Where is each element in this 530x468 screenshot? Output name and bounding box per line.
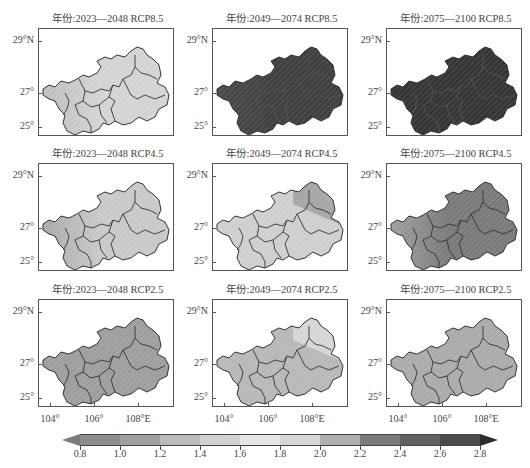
x-tick <box>138 403 139 407</box>
x-tick <box>398 403 399 407</box>
province-map <box>387 164 522 271</box>
province-map <box>213 29 348 136</box>
map-panel: 年份:2049—2074 RCP8.5 29°N27°25° <box>174 10 349 145</box>
y-axis-label: 25° <box>348 391 382 402</box>
panel-title: 年份:2075—2100 RCP4.5 <box>386 145 526 160</box>
colorbar-tick-label: 1.2 <box>145 448 175 459</box>
province-map <box>387 300 522 407</box>
map-panel: 年份:2075—2100 RCP2.5 29°N27°25°104°106°10… <box>348 281 523 416</box>
y-tick <box>386 398 390 399</box>
y-tick <box>38 176 42 177</box>
x-tick <box>312 403 313 407</box>
colorbar-segment <box>120 434 160 446</box>
y-tick <box>212 228 216 229</box>
map-panel: 年份:2023—2048 RCP2.5 29°N27°25°104°106°10… <box>0 281 175 416</box>
y-axis-label: 29°N <box>174 34 208 45</box>
map-frame <box>38 163 174 271</box>
colorbar-segment <box>280 434 320 446</box>
panel-title: 年份:2023—2048 RCP2.5 <box>38 281 178 296</box>
colorbar-tick-label: 2.4 <box>385 448 415 459</box>
colorbar-segment <box>320 434 360 446</box>
map-frame <box>212 28 348 136</box>
y-axis-label: 25° <box>0 120 34 131</box>
y-tick <box>386 262 390 263</box>
colorbar-segment <box>160 434 200 446</box>
colorbar-segment <box>360 434 400 446</box>
colorbar-tick-label: 2.6 <box>425 448 455 459</box>
panel-title: 年份:2023—2048 RCP8.5 <box>38 10 178 25</box>
y-tick <box>38 41 42 42</box>
x-axis-label: 108°E <box>466 413 506 424</box>
map-panel: 年份:2075—2100 RCP8.5 29°N27°25° <box>348 10 523 145</box>
y-axis-label: 25° <box>0 255 34 266</box>
colorbar-tick-label: 1.8 <box>265 448 295 459</box>
x-tick <box>268 403 269 407</box>
y-tick <box>38 312 42 313</box>
y-axis-label: 25° <box>174 255 208 266</box>
y-axis-label: 29°N <box>0 34 34 45</box>
map-panel: 年份:2049—2074 RCP2.5 29°N27°25°104°106°10… <box>174 281 349 416</box>
colorbar-segment <box>400 434 440 446</box>
map-frame <box>212 163 348 271</box>
panel-title: 年份:2049—2074 RCP2.5 <box>212 281 352 296</box>
y-tick <box>212 398 216 399</box>
x-axis-label: 106° <box>74 413 114 424</box>
colorbar-bar <box>62 434 498 446</box>
colorbar-segment <box>80 434 120 446</box>
y-axis-label: 29°N <box>174 305 208 316</box>
y-axis-label: 25° <box>348 120 382 131</box>
y-axis-label: 25° <box>174 120 208 131</box>
y-tick <box>386 364 390 365</box>
y-tick <box>212 364 216 365</box>
x-tick <box>486 403 487 407</box>
y-axis-label: 29°N <box>174 169 208 180</box>
y-tick <box>212 262 216 263</box>
panel-title: 年份:2023—2048 RCP4.5 <box>38 145 178 160</box>
colorbar-over-arrow <box>480 434 498 446</box>
y-tick <box>386 93 390 94</box>
y-tick <box>386 312 390 313</box>
colorbar-segment <box>240 434 280 446</box>
colorbar-tick-label: 2.8 <box>465 448 495 459</box>
x-axis-label: 104° <box>30 413 70 424</box>
y-tick <box>212 41 216 42</box>
province-map <box>213 164 348 271</box>
y-axis-label: 25° <box>0 391 34 402</box>
colorbar-tick-label: 1.6 <box>225 448 255 459</box>
colorbar-segment <box>440 434 480 446</box>
y-tick <box>212 312 216 313</box>
map-frame <box>38 28 174 136</box>
y-tick <box>212 176 216 177</box>
y-tick <box>386 41 390 42</box>
y-tick <box>386 228 390 229</box>
x-axis-label: 108°E <box>292 413 332 424</box>
colorbar-tick-label: 1.4 <box>185 448 215 459</box>
y-tick <box>38 364 42 365</box>
colorbar-tick-label: 0.8 <box>65 448 95 459</box>
y-axis-label: 29°N <box>0 305 34 316</box>
x-axis-label: 106° <box>422 413 462 424</box>
y-axis-label: 29°N <box>348 34 382 45</box>
panel-title: 年份:2075—2100 RCP2.5 <box>386 281 526 296</box>
y-axis-label: 27° <box>0 221 34 232</box>
x-tick <box>224 403 225 407</box>
y-tick <box>212 127 216 128</box>
colorbar-tick-label: 1.0 <box>105 448 135 459</box>
province-map <box>387 29 522 136</box>
x-tick <box>50 403 51 407</box>
x-axis-label: 104° <box>204 413 244 424</box>
colorbar-tick-label: 2.2 <box>345 448 375 459</box>
y-axis-label: 27° <box>348 221 382 232</box>
y-tick <box>38 228 42 229</box>
y-axis-label: 27° <box>348 86 382 97</box>
y-axis-label: 27° <box>0 357 34 368</box>
colorbar-tick-label: 2.0 <box>305 448 335 459</box>
y-axis-label: 29°N <box>348 169 382 180</box>
y-axis-label: 27° <box>174 357 208 368</box>
map-frame <box>212 299 348 407</box>
y-axis-label: 25° <box>348 255 382 266</box>
map-panel: 年份:2023—2048 RCP4.5 29°N27°25° <box>0 145 175 280</box>
map-panel: 年份:2075—2100 RCP4.5 29°N27°25° <box>348 145 523 280</box>
province-map <box>213 300 348 407</box>
y-tick <box>386 176 390 177</box>
